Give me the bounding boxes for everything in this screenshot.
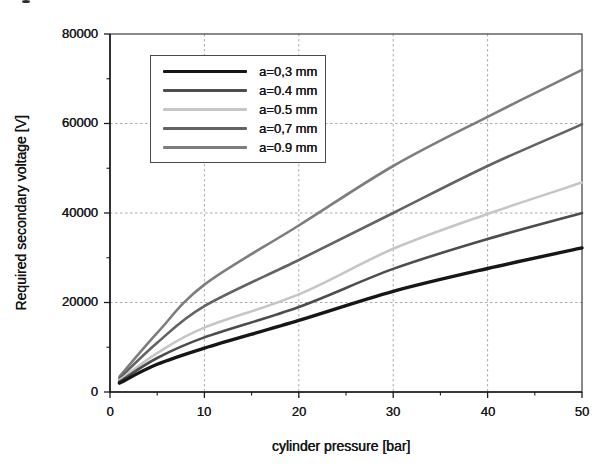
legend-line-sample [163,146,247,149]
x-tick-label: 0 [106,404,113,420]
legend-line-sample [163,108,247,111]
legend-label: a=0,3 mm [259,64,317,79]
x-tick-label: 30 [386,404,400,420]
x-tick-label: 20 [292,404,306,420]
legend-line-sample [163,127,247,130]
legend-row: a=0.5 mm [151,100,325,119]
y-tick-label: 80000 [40,26,98,42]
y-tick-label: 0 [40,384,98,400]
y-tick-label: 20000 [40,294,98,310]
y-tick-label: 60000 [40,115,98,131]
legend-row: a=0,3 mm [151,62,325,81]
y-axis-title: Required secondary voltage [V] [13,115,29,310]
legend: a=0,3 mm a=0.4 mm a=0.5 mm a=0,7 mm a=0.… [150,55,326,163]
legend-row: a=0.4 mm [151,81,325,100]
legend-label: a=0.4 mm [259,83,317,98]
x-tick-label: 50 [575,404,589,420]
legend-label: a=0,7 mm [259,121,317,136]
legend-line-sample [163,89,247,92]
legend-label: a=0.5 mm [259,102,317,117]
legend-row: a=0,7 mm [151,119,325,138]
legend-line-sample [163,70,247,73]
line-chart-figure: 80000 60000 40000 20000 0 0 10 20 30 40 … [0,0,605,467]
x-tick-label: 10 [197,404,211,420]
x-tick-label: 40 [481,404,495,420]
legend-row: a=0.9 mm [151,138,325,157]
legend-label: a=0.9 mm [259,140,317,155]
x-axis-title: cylinder pressure [bar] [272,438,411,454]
y-tick-label: 40000 [40,205,98,221]
